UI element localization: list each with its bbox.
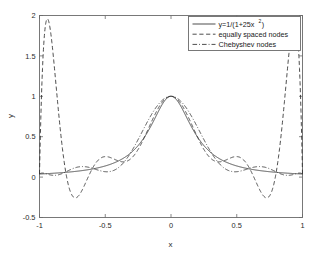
legend-label: Chebyshev nodes <box>219 40 277 49</box>
y-tick-label: -0.5 <box>23 213 36 222</box>
chart-svg: -1-0.500.51 -0.500.511.52 x y y=1/(1+25x… <box>0 0 319 255</box>
x-tick-label: 0 <box>169 221 173 230</box>
x-tick-label: 0.5 <box>232 221 242 230</box>
x-tick-label: 1 <box>300 221 304 230</box>
y-tick-label: 1 <box>31 92 35 101</box>
x-tick-label: -0.5 <box>99 221 112 230</box>
x-axis-title: x <box>169 240 173 249</box>
legend-label: equally spaced nodes <box>219 30 289 39</box>
y-tick-label: 1.5 <box>25 52 35 61</box>
y-tick-label: 0.5 <box>25 132 35 141</box>
chart-legend: y=1/(1+25x2)equally spaced nodesChebyshe… <box>189 17 301 51</box>
y-tick-label: 2 <box>31 11 35 20</box>
y-tick-label: 0 <box>31 173 35 182</box>
figure-canvas: -1-0.500.51 -0.500.511.52 x y y=1/(1+25x… <box>0 0 319 255</box>
x-tick-label: -1 <box>36 221 43 230</box>
y-axis-title: y <box>6 114 15 118</box>
